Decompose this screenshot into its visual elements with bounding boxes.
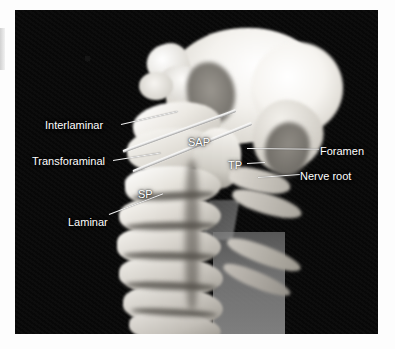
scan-artifact-mark <box>0 28 5 70</box>
label-tp: TP <box>228 159 242 171</box>
label-sap: SAP <box>188 136 210 148</box>
label-nerve-root: Nerve root <box>300 170 351 182</box>
midline-groove <box>185 160 199 310</box>
page-canvas: Interlaminar Transforaminal Laminar SAP … <box>0 0 395 349</box>
label-foramen: Foramen <box>320 145 364 157</box>
superior-bone-knob-c <box>139 72 173 100</box>
label-sp: SP <box>138 188 153 200</box>
label-interlaminar: Interlaminar <box>45 119 103 131</box>
label-laminar: Laminar <box>68 216 108 228</box>
label-transforaminal: Transforaminal <box>32 155 105 167</box>
